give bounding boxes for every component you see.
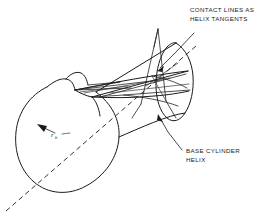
base-radius-arrowhead (37, 124, 47, 132)
contact-lines-label-line1: CONTACT LINES AS (190, 6, 254, 13)
base-cylinder-label-line2: HELIX (186, 156, 206, 163)
base-radius-dimension-group (37, 124, 70, 134)
contact-lines-label-line2: HELIX TANGENTS (190, 15, 248, 22)
base-radius-tick (62, 133, 70, 134)
base-cylinder-label-line1: BASE CYLINDER (186, 147, 240, 154)
line-drawing-canvas: CONTACT LINES AS HELIX TANGENTS BASE CYL… (0, 0, 261, 217)
base-radius-subscript: b (55, 135, 58, 140)
front-base-circle (16, 87, 119, 192)
tooth-flank-crest (66, 72, 88, 85)
base-cylinder-leader-line (160, 118, 182, 150)
generating-plane-apex-extension (154, 29, 158, 47)
plane-trace-line-left (132, 104, 141, 118)
front-base-circle-group (16, 87, 119, 192)
base-cylinder-helix-lower (92, 91, 189, 98)
rear-end-ellipse (156, 43, 193, 121)
technical-drawing-figure: CONTACT LINES AS HELIX TANGENTS BASE CYL… (0, 0, 261, 217)
generating-plane-right-edge (158, 29, 166, 101)
tooth-flank-upper-edge (47, 79, 75, 90)
cylinder-body-outline-group (96, 43, 185, 137)
contact-lines-leader-line (160, 33, 194, 68)
rear-end-ellipse-group (156, 43, 193, 121)
involute-tooth-surface-group (47, 72, 131, 116)
contact-lines-group (75, 71, 190, 97)
tooth-root-fillet (92, 97, 100, 116)
